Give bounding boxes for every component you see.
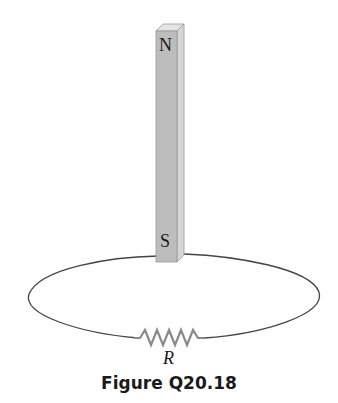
figure-caption: Figure Q20.18	[0, 373, 338, 393]
resistor-zigzag	[134, 330, 205, 345]
south-pole-label: S	[160, 231, 170, 252]
bar-magnet	[156, 24, 184, 262]
diagram-canvas	[0, 0, 338, 403]
wire-loop	[28, 254, 319, 338]
figure-q20-18: N S R Figure Q20.18	[0, 0, 338, 403]
resistor-label: R	[163, 348, 174, 369]
north-pole-label: N	[159, 35, 172, 56]
